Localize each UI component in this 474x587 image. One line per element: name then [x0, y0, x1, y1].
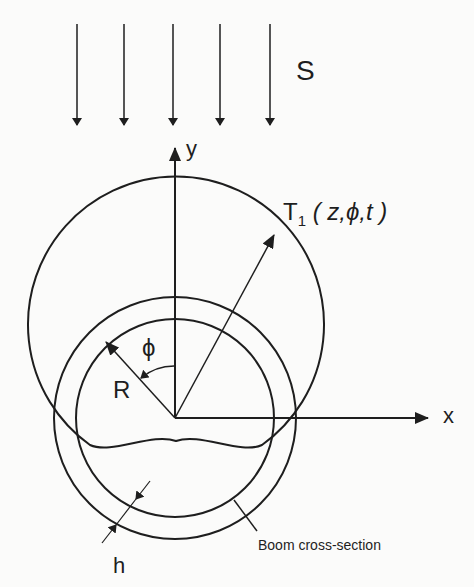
temperature-symbol: T	[283, 198, 298, 225]
temperature-subscript: 1	[298, 212, 306, 229]
angle-arc	[141, 366, 175, 378]
x-axis-label: x	[443, 403, 454, 429]
temperature-label: T1 ( z,ϕ,t )	[283, 198, 387, 229]
radius-label: R	[113, 376, 130, 404]
cross-section-label: Boom cross-section	[258, 537, 381, 553]
temperature-profile-curve	[28, 177, 324, 448]
temperature-arrow	[175, 235, 274, 418]
angle-label: ϕ	[142, 334, 155, 362]
flux-arrows	[77, 24, 270, 125]
cross-section-leader	[234, 500, 257, 531]
temperature-args: ( z,ϕ,t )	[313, 198, 388, 225]
y-axis-label: y	[186, 136, 197, 162]
thickness-label: h	[113, 553, 125, 579]
flux-label: S	[296, 55, 315, 87]
diagram-canvas: S y x T1 ( z,ϕ,t ) R ϕ h Boom cross-sect…	[0, 0, 474, 587]
diagram-svg	[0, 0, 474, 587]
